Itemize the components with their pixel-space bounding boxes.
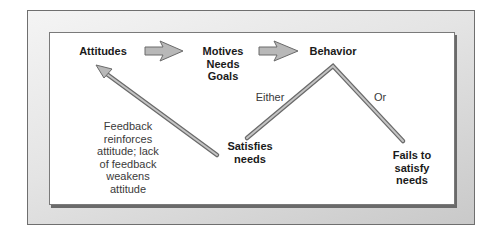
feedback-note-line: of feedback xyxy=(92,158,164,171)
fails-to-line: Fails to xyxy=(382,149,442,162)
satisfy-line: satisfy xyxy=(382,162,442,175)
or-text: Or xyxy=(374,91,386,103)
needs-line: needs xyxy=(220,153,280,166)
node-behavior: Behavior xyxy=(303,45,363,58)
node-needs-line: Needs xyxy=(193,58,253,71)
node-attitudes: Attitudes xyxy=(73,45,133,58)
branch-label-or: Or xyxy=(365,91,395,104)
node-attitudes-label: Attitudes xyxy=(79,45,127,57)
feedback-note-line: attitude; lack xyxy=(92,145,164,158)
block-arrow-motives-to-behavior xyxy=(259,41,298,61)
satisfies-line: Satisfies xyxy=(220,140,280,153)
feedback-note-line: reinforces xyxy=(92,133,164,146)
feedback-note-line: weakens xyxy=(92,170,164,183)
fails-needs-line: needs xyxy=(382,174,442,187)
feedback-note-line: attitude xyxy=(92,183,164,196)
node-motives-needs-goals: Motives Needs Goals xyxy=(193,45,253,83)
node-satisfies-needs: Satisfies needs xyxy=(220,140,280,165)
branch-label-either: Either xyxy=(250,91,290,104)
node-fails-to-satisfy: Fails to satisfy needs xyxy=(382,149,442,187)
feedback-note-line: Feedback xyxy=(92,120,164,133)
diagram-connectors xyxy=(0,0,500,239)
either-text: Either xyxy=(256,91,285,103)
node-goals-line: Goals xyxy=(193,70,253,83)
node-behavior-label: Behavior xyxy=(309,45,356,57)
feedback-note: Feedback reinforces attitude; lack of fe… xyxy=(92,120,164,195)
node-motives-line: Motives xyxy=(193,45,253,58)
branch-lines xyxy=(247,66,403,141)
block-arrow-attitudes-to-motives xyxy=(145,41,183,61)
